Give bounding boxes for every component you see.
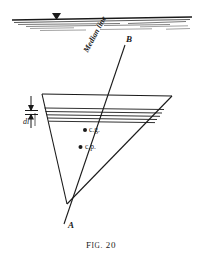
caption-small-caps: IG.	[92, 241, 103, 250]
water-hatch-line	[140, 26, 188, 27]
figure-caption: FIG.20	[0, 240, 202, 250]
center-of-gravity-point	[83, 128, 87, 132]
water-hatch-line	[128, 22, 186, 24]
triangular-plate-outline	[42, 94, 172, 204]
water-hatch-line	[40, 30, 86, 31]
label-dl-thickness: dl	[23, 118, 29, 126]
label-center-of-pressure: c.p.	[85, 143, 96, 151]
plate-left-edge	[42, 94, 67, 204]
caption-number: 20	[106, 240, 116, 250]
water-hatch-line	[166, 29, 190, 30]
strip-line	[48, 118, 158, 120]
strip-line	[45, 108, 165, 110]
label-point-a: A	[68, 221, 74, 230]
water-hatch-line	[100, 29, 152, 30]
strip-line	[47, 115, 161, 117]
center-of-pressure-point	[79, 145, 83, 149]
figure-drawing-canvas	[0, 0, 202, 258]
label-center-of-gravity: c.g.	[89, 126, 100, 134]
median-line-group	[64, 45, 125, 224]
water-hatch-line	[30, 28, 74, 29]
plate-top-edge	[42, 94, 172, 96]
water-hatch-line	[104, 25, 170, 26]
median-line-segment	[64, 45, 125, 224]
water-hatch-line	[26, 26, 96, 27]
figure-20: B A Median line dl c.g. c.p. FIG.20	[0, 0, 202, 258]
elemental-strip-group	[45, 108, 165, 123]
strip-line	[46, 112, 163, 114]
label-point-b: B	[126, 35, 132, 44]
strip-line	[49, 121, 156, 122]
